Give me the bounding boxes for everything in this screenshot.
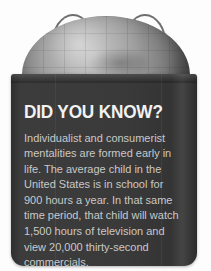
shopping-bag: DID YOU KNOW? Individualist and consumer… <box>11 74 197 266</box>
body-paragraph: Individualist and consumerist mentalitie… <box>24 131 181 267</box>
did-you-know-infographic: DID YOU KNOW? Individualist and consumer… <box>0 0 211 271</box>
bag-text-panel: DID YOU KNOW? Individualist and consumer… <box>24 103 187 266</box>
bag-top-fold <box>11 74 197 83</box>
page-title: DID YOU KNOW? <box>24 103 176 122</box>
